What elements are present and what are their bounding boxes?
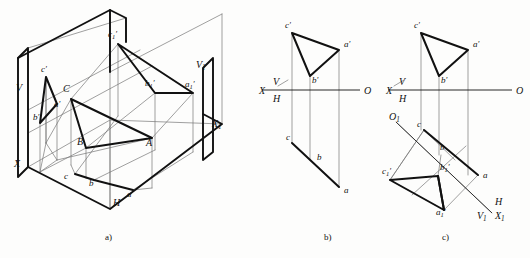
label-a: a: [127, 189, 132, 199]
label-H: H: [398, 93, 407, 104]
label-X1-subscript: 1: [501, 215, 505, 223]
thin-construction-line-35: [40, 160, 57, 172]
triangle-ABC-space: [71, 99, 152, 148]
descriptive-geometry-figure: VXHV1X1c′a′b′CBAcbac1′b1′a1′ XVHOc′a′b′c…: [0, 0, 530, 258]
label-c1-prime-prime: ′: [115, 29, 117, 39]
label-X: X: [385, 85, 393, 96]
thin-construction-line-23: [28, 66, 152, 133]
label-b: b: [89, 178, 94, 188]
label-X1: X1: [494, 210, 505, 223]
label-O1-subscript: 1: [396, 116, 400, 124]
label-c-prime-prime: ′: [289, 20, 291, 30]
label-H2: H: [494, 196, 503, 207]
triangle-abc-horizontal: [75, 174, 133, 190]
label-c1-prime: c1′: [108, 29, 117, 40]
label-H: H: [112, 197, 121, 208]
label-c1-prime: c1′: [382, 166, 391, 177]
panel-b-orthographic: XVHOc′a′b′cba: [258, 20, 371, 195]
label-V1: V1: [477, 210, 487, 223]
caption-a: a): [105, 232, 112, 242]
label-C: C: [63, 83, 70, 94]
label-c: c: [417, 119, 421, 129]
label-a: a: [483, 170, 488, 180]
label-a-prime-prime: ′: [478, 39, 480, 49]
label-b: b: [317, 152, 322, 162]
label-a-prime-prime: ′: [349, 39, 351, 49]
thin-construction-line-8: [390, 130, 424, 180]
thick-outline-4: [203, 58, 213, 160]
label-b1-prime: b1′: [145, 78, 155, 89]
label-b-prime-prime: ′: [38, 112, 40, 122]
label-B: B: [77, 136, 83, 147]
label-a-prime: a′: [344, 39, 351, 49]
label-V1-subscript: 1: [483, 215, 487, 223]
label-c-prime-prime: ′: [418, 20, 420, 30]
top-view-line-ca: [424, 130, 478, 175]
label-b1-prime: b1′: [440, 162, 450, 173]
label-X: X: [13, 158, 21, 169]
caption-c: c): [442, 232, 449, 242]
label-c-prime: c′: [41, 64, 47, 74]
label-O: O: [364, 85, 371, 96]
label-b-prime-prime: ′: [446, 75, 448, 85]
label-b1-prime-prime: ′: [448, 162, 450, 172]
front-view-triangle: [292, 33, 339, 76]
label-X1-subscript: 1: [218, 123, 222, 131]
label-O: O: [516, 85, 523, 96]
label-a1-prime-prime: ′: [193, 79, 195, 89]
label-a-prime-prime: ′: [59, 99, 61, 109]
triangle-V1-projection: [118, 44, 193, 93]
thin-construction-line-3: [278, 80, 288, 86]
label-X: X: [258, 85, 266, 96]
label-V: V: [16, 82, 24, 93]
label-a: a: [344, 185, 349, 195]
label-c: c: [286, 132, 290, 142]
label-H: H: [272, 93, 281, 104]
top-view-line-ca: [292, 143, 339, 187]
thin-construction-line-6: [444, 175, 478, 210]
label-c-prime-prime: ′: [45, 64, 47, 74]
label-b-prime: b′: [312, 75, 319, 85]
thick-outline-1: [18, 10, 110, 72]
label-V: V: [273, 76, 281, 87]
label-b-prime-prime: ′: [317, 75, 319, 85]
label-A: A: [145, 137, 153, 148]
label-V1-subscript: 1: [202, 64, 206, 72]
panel-a-pictorial: VXHV1X1c′a′b′CBAcbac1′b1′a1′: [13, 10, 222, 209]
caption-b: b): [324, 232, 332, 242]
label-b-prime: b′: [441, 75, 448, 85]
label-V1: V1: [196, 59, 206, 72]
figure-page: VXHV1X1c′a′b′CBAcbac1′b1′a1′ XVHOc′a′b′c…: [0, 0, 530, 258]
label-a-prime: a′: [54, 99, 61, 109]
label-c1-prime-prime: ′: [389, 166, 391, 176]
figure-captions: a)b)c): [105, 232, 449, 242]
thin-construction-line-26: [94, 150, 155, 180]
label-b: b: [440, 142, 445, 152]
label-c: c: [64, 171, 68, 181]
label-c-prime: c′: [414, 20, 420, 30]
aux-view-triangle: [390, 176, 444, 210]
label-V: V: [399, 76, 407, 87]
aux-view-edge-b1a1: [438, 176, 444, 210]
label-a-prime: a′: [473, 39, 480, 49]
label-b-prime: b′: [33, 112, 40, 122]
label-c-prime: c′: [285, 20, 291, 30]
thin-construction-line-30: [152, 93, 193, 138]
thin-construction-line-19: [71, 165, 75, 174]
front-view-triangle: [421, 33, 468, 76]
label-a1-prime: a1′: [185, 79, 195, 90]
label-O1: O1: [389, 111, 400, 124]
label-a1-prime-prime: ′: [444, 207, 446, 217]
panel-c-auxiliary: XVHOO1HV1X1c′a′b′cbac1′b1′a1′: [382, 20, 523, 223]
label-b1-prime-prime: ′: [153, 78, 155, 88]
